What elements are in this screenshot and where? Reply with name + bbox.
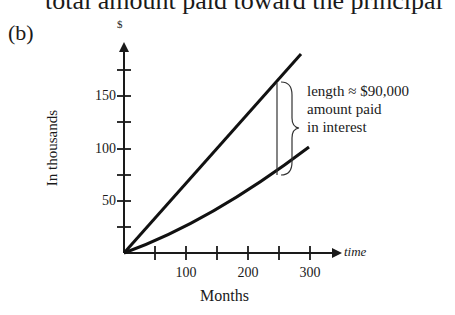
chart-svg: [0, 0, 455, 315]
total-paid-line: [124, 54, 301, 253]
principal-curve: [124, 147, 309, 253]
